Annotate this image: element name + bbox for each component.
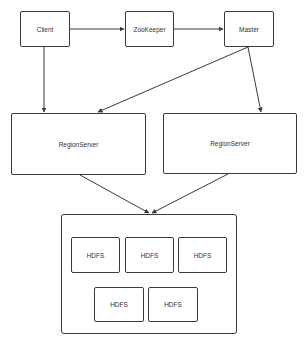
regionserver-left-label: RegionServer bbox=[59, 141, 99, 148]
hdfs-label: HDFS bbox=[141, 252, 159, 259]
hdfs-node-4: HDFS bbox=[94, 287, 144, 322]
client-node: Client bbox=[20, 11, 70, 47]
zookeeper-node: ZooKeeper bbox=[125, 11, 174, 47]
hdfs-node-1: HDFS bbox=[71, 237, 120, 273]
edge-master-regionserver-right bbox=[248, 47, 261, 112]
hdfs-label: HDFS bbox=[87, 252, 105, 259]
hdfs-label: HDFS bbox=[110, 301, 128, 308]
edge-regionserver-right-hdfs bbox=[152, 174, 228, 213]
regionserver-right-label: RegionServer bbox=[210, 140, 250, 147]
edge-regionserver-left-hdfs bbox=[80, 175, 149, 213]
hdfs-label: HDFS bbox=[194, 252, 212, 259]
regionserver-left-node: RegionServer bbox=[11, 113, 146, 175]
hdfs-node-2: HDFS bbox=[125, 237, 174, 273]
hdfs-label: HDFS bbox=[164, 301, 182, 308]
hdfs-node-3: HDFS bbox=[178, 237, 227, 273]
client-label: Client bbox=[37, 26, 54, 33]
hdfs-node-5: HDFS bbox=[148, 287, 198, 322]
zookeeper-label: ZooKeeper bbox=[133, 26, 165, 33]
master-label: Master bbox=[239, 26, 259, 33]
edge-master-regionserver-left bbox=[98, 47, 248, 112]
master-node: Master bbox=[224, 11, 274, 47]
regionserver-right-node: RegionServer bbox=[163, 113, 297, 174]
